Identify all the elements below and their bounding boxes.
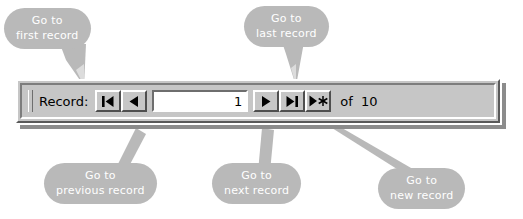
record-navigation-bar-inner: Record: [20,83,496,119]
back-button-group [95,90,147,112]
callout-previous-record: Go to previous record [44,163,157,204]
callout-next-record-line2: next record [224,183,289,198]
annotated-screenshot: Go to first record Go to last record Go … [0,0,523,219]
previous-record-button[interactable] [121,90,147,112]
callout-first-record: Go to first record [4,8,91,49]
callout-first-record-line1: Go to [16,13,79,28]
callout-new-record-line1: Go to [390,173,453,188]
first-record-button[interactable] [95,90,121,112]
record-navigation-bar: Record: [16,79,500,123]
callout-new-record-line2: new record [390,188,453,203]
callout-next-record-line1: Go to [224,168,289,183]
last-record-icon [285,96,299,107]
record-number-input[interactable] [152,90,248,112]
callout-last-record-line1: Go to [256,11,317,26]
callout-previous-record-line2: previous record [56,183,145,198]
record-total-label: of 10 [340,94,377,109]
next-record-icon [261,96,271,107]
callout-last-record-line2: last record [256,26,317,41]
callout-last-record: Go to last record [244,6,329,47]
first-record-icon [101,96,115,107]
callout-previous-record-line1: Go to [56,168,145,183]
last-record-button[interactable] [279,90,305,112]
callout-new-record: Go to new record [378,168,465,209]
navbar-drop-shadow-right [502,83,506,129]
new-record-icon [309,95,328,107]
callout-next-record: Go to next record [212,163,301,204]
navbar-drop-shadow-bottom [20,125,504,129]
navbar-grip [28,90,33,112]
next-record-button[interactable] [253,90,279,112]
new-record-button[interactable] [305,90,331,112]
forward-button-group [253,90,331,112]
callout-first-record-line2: first record [16,28,79,43]
previous-record-icon [129,96,139,107]
record-label: Record: [39,94,88,109]
